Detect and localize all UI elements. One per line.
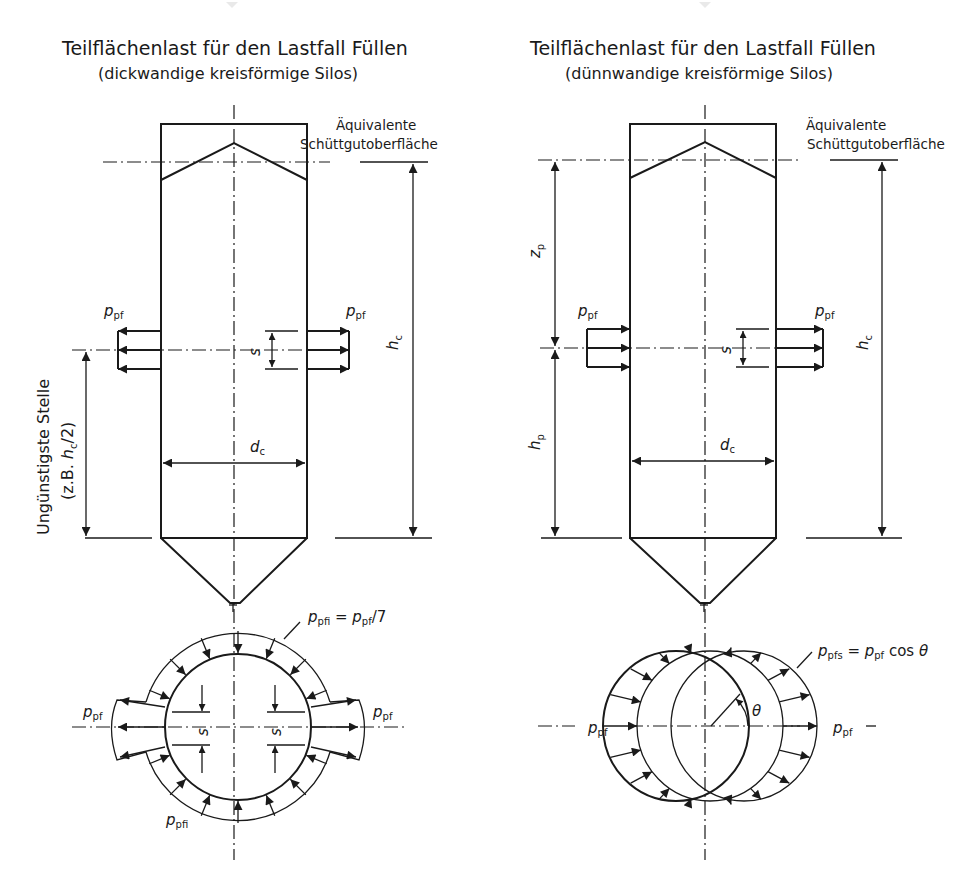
pressure-arrow [659,653,669,664]
right-silo-elevation: Äquivalente Schüttgutoberfläche hc zp hp… [526,105,945,860]
s-label: s [717,346,735,354]
pressure-arrow [170,779,186,795]
pressure-arrow [768,772,789,783]
left-subtitle: (dickwandige kreisförmige Silos) [98,64,358,83]
pressure-arrow [266,638,274,658]
hp-label: hp [526,434,546,450]
ppf-label: ppf [577,302,598,321]
pressure-arrow [610,695,640,702]
left-panel: Teilflächenlast für den Lastfall Füllen … [34,37,438,860]
page-marker-icon [699,2,711,8]
patch-load-left [587,329,630,367]
pressure-arrow [266,795,274,815]
pressure-arrow [779,695,809,702]
ppfi-formula: ppfi = ppf/7 [307,608,386,627]
pressure-arrow [768,669,789,680]
ppfi-label: ppfi [165,811,188,830]
surface-label: Schüttgutoberfläche [807,136,945,152]
patch-envelope-right [330,700,365,760]
dc-label: dc [720,436,735,455]
right-title: Teilflächenlast für den Lastfall Füllen [529,37,876,59]
pressure-arrow [149,690,169,698]
pressure-arrow [290,779,306,795]
side-label: Ungünstigste Stelle [34,379,53,535]
patch-load-left [118,331,161,369]
patch-load-right [307,331,349,369]
zp-label: zp [526,244,546,259]
pressure-arrow [290,659,306,675]
surface-label: Schüttgutoberfläche [300,136,438,152]
pressure-arrow [201,638,209,658]
ppf-label: ppf [814,302,835,321]
pressure-arrow [306,755,326,763]
ppf-plan-label: ppf [82,703,103,722]
hc-label: hc [384,335,404,350]
surface-label: Äquivalente [806,116,886,133]
dc-label: dc [250,438,265,457]
theta-label: θ [752,702,761,720]
pressure-arrow [751,653,761,664]
pressure-arrow [306,690,326,698]
pressure-arrow [610,750,640,757]
right-panel: Teilflächenlast für den Lastfall Füllen … [526,37,945,860]
ppf-label: ppf [103,302,124,321]
pressure-arrow [170,659,186,675]
ppf-label: ppf [345,302,366,321]
page-marker-icon [226,2,238,8]
side-label-formula: (z.B. hc/2) [58,422,79,500]
s-label: s [246,348,264,356]
ppf-plan-label: ppf [587,719,608,738]
s-label: s [194,728,212,736]
pressure-arrow [779,750,809,757]
patch-envelope-left [112,700,147,760]
theta-radius [711,694,740,726]
pressure-arrow [201,795,209,815]
pressure-arrow [751,788,761,799]
ppf-plan-label: ppf [372,703,393,722]
s-label: s [267,728,285,736]
hc-label: hc [854,335,874,350]
left-plan-view: s s ppf ppf ppfi = ppf/7 ppfi [72,608,405,830]
left-title: Teilflächenlast für den Lastfall Füllen [61,37,408,59]
pressure-arrow [631,669,652,680]
silo-load-diagram: Teilflächenlast für den Lastfall Füllen … [0,0,975,872]
ppfs-formula: ppfs = ppf cos θ [817,642,928,661]
pressure-arrow [631,772,652,783]
right-subtitle: (dünnwandige kreisförmige Silos) [565,64,833,83]
surface-label: Äquivalente [336,116,416,133]
ppf-plan-label: ppf [832,719,853,738]
right-plan-view: θ ppf ppf ppfs = ppf cos θ [538,642,928,804]
pressure-arrow [659,788,669,799]
silo-shell [630,124,776,538]
left-silo-elevation: Äquivalente Schüttgutoberfläche hc Ungün… [34,105,438,860]
pressure-arrow [149,755,169,763]
hopper [630,538,776,603]
patch-load-right [776,329,823,367]
